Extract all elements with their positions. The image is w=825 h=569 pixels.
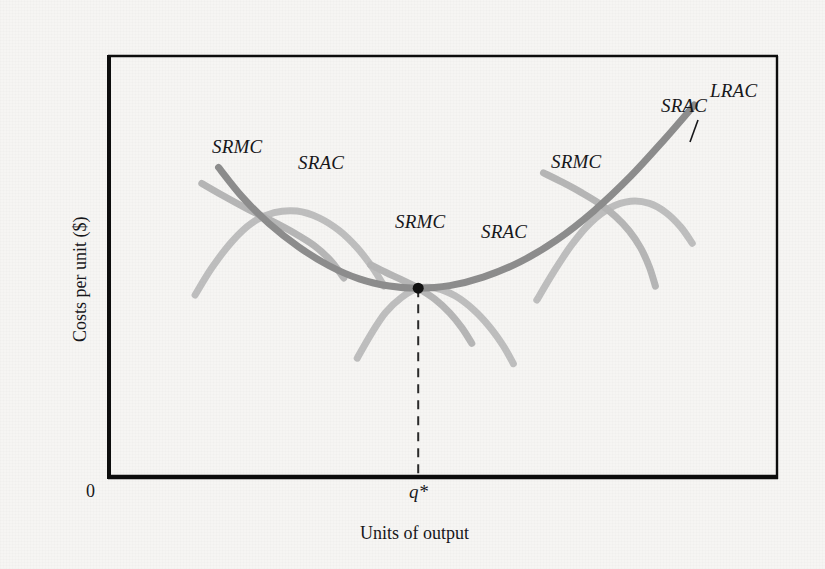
origin-label: 0: [86, 481, 95, 502]
curve-lrac: [219, 105, 695, 288]
y-axis-title: Costs per unit ($): [70, 217, 91, 343]
curve-srmc-mid: [371, 265, 472, 343]
srac-right-leader-line: [690, 120, 698, 142]
curve-layer: [195, 105, 694, 364]
curve-srac-left: [195, 211, 384, 295]
x-axis-title: Units of output: [360, 523, 469, 544]
label-lrac: LRAC: [710, 80, 757, 102]
marker-layer: [413, 283, 424, 479]
figure-canvas: SRMC SRAC SRMC SRAC SRMC SRAC LRAC Costs…: [0, 0, 825, 569]
curve-srmc-right: [544, 173, 656, 286]
x-tick-label-qstar: q*: [409, 481, 428, 503]
tangency-dot: [413, 283, 424, 294]
label-srac-left: SRAC: [298, 152, 344, 174]
label-srmc-right: SRMC: [551, 151, 601, 173]
label-srac-mid: SRAC: [481, 221, 527, 243]
label-srmc-left: SRMC: [212, 136, 262, 158]
label-srmc-mid: SRMC: [395, 211, 445, 233]
label-srac-right: SRAC: [661, 95, 707, 117]
